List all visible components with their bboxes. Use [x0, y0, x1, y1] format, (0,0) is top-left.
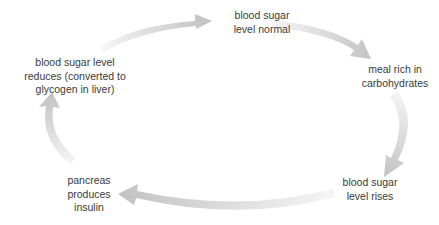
stage-line: meal rich in: [353, 63, 437, 77]
stage-line: produces: [54, 188, 124, 202]
stage-line: insulin: [54, 201, 124, 215]
stage-line: glycogen in liver): [15, 83, 135, 97]
arrow-rises-to-insulin: [118, 184, 335, 210]
stage-blood-sugar-normal: blood sugar level normal: [222, 9, 302, 36]
stage-line: blood sugar: [330, 176, 410, 190]
stage-pancreas-insulin: pancreas produces insulin: [54, 174, 124, 215]
stage-blood-sugar-reduces: blood sugar level reduces (converted to …: [15, 56, 135, 97]
stage-line: blood sugar: [222, 9, 302, 23]
arrow-meal-to-rises: [384, 92, 408, 177]
stage-meal-carbohydrates: meal rich in carbohydrates: [353, 63, 437, 90]
arrow-insulin-to-reduces: [39, 92, 76, 164]
stage-line: pancreas: [54, 174, 124, 188]
stage-blood-sugar-rises: blood sugar level rises: [330, 176, 410, 203]
arrow-reduces-to-normal: [100, 14, 212, 52]
stage-line: carbohydrates: [353, 77, 437, 91]
stage-line: reduces (converted to: [15, 70, 135, 84]
stage-line: blood sugar level: [15, 56, 135, 70]
stage-line: level normal: [222, 23, 302, 37]
stage-line: level rises: [330, 190, 410, 204]
